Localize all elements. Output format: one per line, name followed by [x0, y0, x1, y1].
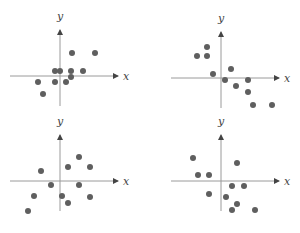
- data-point: [52, 79, 58, 85]
- y-axis-label: y: [217, 12, 225, 25]
- data-point: [57, 68, 63, 74]
- data-point: [210, 71, 216, 77]
- x-axis-label: x: [284, 72, 291, 85]
- data-point: [233, 83, 239, 89]
- data-point: [92, 50, 98, 56]
- data-point: [76, 154, 82, 160]
- data-point: [69, 50, 75, 56]
- y-axis-label: y: [56, 10, 64, 23]
- data-point: [228, 66, 234, 72]
- data-point: [25, 208, 31, 214]
- data-point: [234, 160, 240, 166]
- data-point: [63, 79, 69, 85]
- y-axis-label: y: [56, 115, 64, 128]
- data-point: [48, 182, 54, 188]
- scatter-panel-top-right: xy: [171, 12, 291, 108]
- data-point: [252, 207, 258, 213]
- data-point: [68, 74, 74, 80]
- data-point: [223, 194, 229, 200]
- data-point: [80, 68, 86, 74]
- data-point: [229, 207, 235, 213]
- data-point: [250, 102, 256, 108]
- scatter-panel-bottom-right: xy: [171, 115, 291, 213]
- scatter-plots-grid: xyxyxyxy: [0, 0, 300, 233]
- data-point: [68, 68, 74, 74]
- x-axis-label: x: [284, 175, 291, 188]
- data-point: [206, 172, 212, 178]
- x-axis-label: x: [123, 175, 130, 188]
- data-point: [269, 102, 275, 108]
- data-point: [87, 194, 93, 200]
- x-axis-label: x: [123, 70, 130, 83]
- data-point: [229, 183, 235, 189]
- y-axis-label: y: [217, 115, 225, 128]
- data-point: [195, 172, 201, 178]
- data-point: [40, 91, 46, 97]
- data-point: [241, 183, 247, 189]
- data-point: [31, 193, 37, 199]
- data-point: [190, 155, 196, 161]
- data-point: [76, 182, 82, 188]
- data-point: [204, 53, 210, 59]
- data-point: [245, 77, 251, 83]
- data-point: [59, 193, 65, 199]
- data-point: [87, 164, 93, 170]
- scatter-panel-top-left: xy: [10, 10, 130, 106]
- data-point: [65, 200, 71, 206]
- scatter-panel-bottom-left: xy: [10, 115, 130, 214]
- data-point: [245, 89, 251, 95]
- data-point: [222, 77, 228, 83]
- data-point: [194, 53, 200, 59]
- data-point: [234, 201, 240, 207]
- data-point: [65, 164, 71, 170]
- data-point: [38, 168, 44, 174]
- data-point: [206, 191, 212, 197]
- data-point: [204, 44, 210, 50]
- data-point: [35, 79, 41, 85]
